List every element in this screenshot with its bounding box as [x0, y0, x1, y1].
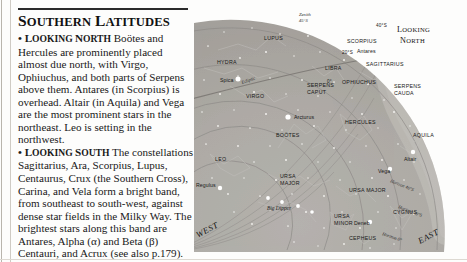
- label-virgo: VIRGO: [246, 93, 264, 99]
- label-star-arcturus: Arcturus: [294, 114, 314, 120]
- sky-chart-page: SOUTHERN LATITUDES • LOOKING NORTH Boöte…: [0, 0, 467, 262]
- label-star-altair: Altair: [404, 156, 417, 162]
- lead-north-north: ORTH: [83, 33, 111, 44]
- label-zenith-line1: Zenith: [299, 12, 311, 17]
- lead-south-looking: OOKING: [32, 147, 75, 158]
- bullet-marker-south: •: [18, 146, 25, 158]
- body-text-north: Boötes and Hercules are prominently plac…: [18, 32, 184, 145]
- label-draco: URSA MAJOR: [349, 187, 386, 193]
- label-serpens-cauda-1: SERPENS: [394, 83, 421, 89]
- label-star-regulus: Regulus: [196, 182, 216, 188]
- lead-south-cap-l: L: [25, 146, 32, 158]
- star-chart: LUPUS HYDRA SCORPIUS SAGITTARIUS LIBRA O…: [194, 6, 467, 259]
- label-ursa-minor-1: URSA: [334, 213, 350, 219]
- label-big-dipper: Big Dipper: [267, 205, 292, 211]
- lead-north-cap-l: L: [25, 32, 32, 44]
- star-arcturus-dot: [285, 114, 290, 119]
- star-altair-dot: [411, 150, 415, 154]
- label-ophiuchus: OPHIUCHUS: [342, 79, 376, 85]
- looking-line-1: LOOKING: [397, 25, 430, 34]
- label-star-deneb: Deneb: [354, 220, 370, 226]
- label-star-spica: Spica: [220, 77, 233, 83]
- label-ursa-major-1: URSA: [280, 173, 296, 179]
- label-serpens-cauda-2: CAUDA: [394, 90, 414, 96]
- label-cepheus: CEPHEUS: [349, 235, 377, 241]
- bullet-marker-north: •: [18, 32, 25, 44]
- label-serpens-caput-2: CAPUT: [307, 89, 327, 95]
- looking-line-2: NORTH: [400, 36, 425, 45]
- label-ursa-major-2: MAJOR: [280, 180, 300, 186]
- zenith-label: Zenith 45°S: [299, 12, 311, 23]
- label-leo: LEO: [215, 156, 226, 162]
- label-dec-0: 0°: [327, 79, 332, 84]
- label-aquila: AQUILA: [413, 132, 434, 138]
- page-title: SOUTHERN LATITUDES: [18, 12, 194, 31]
- lead-south-south: OUTH: [81, 147, 109, 158]
- paragraph-looking-south: • LOOKING SOUTH The constellations Sagit…: [18, 146, 194, 260]
- label-libra: LIBRA: [325, 65, 342, 71]
- label-ursa-minor-2: MINOR: [334, 220, 353, 226]
- label-dec-40s: 40°S: [376, 23, 387, 28]
- page-frame-rule-outer: [1, 0, 2, 262]
- label-star-antares: Antares: [357, 48, 376, 54]
- label-bootes: BOÖTES: [276, 132, 300, 138]
- lead-in-south: LOOKING SOUTH: [25, 146, 110, 158]
- label-star-vega: Vega: [378, 168, 390, 174]
- title-top-rule: [18, 8, 188, 10]
- star-chart-svg: LUPUS HYDRA SCORPIUS SAGITTARIUS LIBRA O…: [194, 6, 467, 259]
- body-text-south: The constellations Sagittarius, Ara, Sco…: [18, 146, 193, 259]
- label-hercules: HERCULES: [345, 119, 376, 125]
- label-hydra: HYDRA: [217, 59, 237, 65]
- paragraph-looking-north: • LOOKING NORTH Boötes and Hercules are …: [18, 32, 194, 146]
- star-spica-dot: [236, 77, 241, 82]
- article-text-column: SOUTHERN LATITUDES • LOOKING NORTH Boöte…: [18, 12, 194, 260]
- star-regulus-dot: [218, 186, 222, 190]
- label-lupus: LUPUS: [264, 35, 283, 41]
- label-zenith-line2: 45°S: [299, 18, 308, 23]
- lead-north-cap-n: N: [75, 32, 83, 44]
- label-scorpius: SCORPIUS: [347, 38, 377, 44]
- lead-north-looking: OOKING: [32, 33, 75, 44]
- label-dec-20s: 20°S: [342, 50, 353, 55]
- looking-north-title: LOOKING NORTH: [397, 25, 430, 45]
- label-sagittarius: SAGITTARIUS: [366, 61, 404, 67]
- lead-in-north: LOOKING NORTH: [25, 32, 111, 44]
- page-frame-rule-inner: [10, 0, 11, 262]
